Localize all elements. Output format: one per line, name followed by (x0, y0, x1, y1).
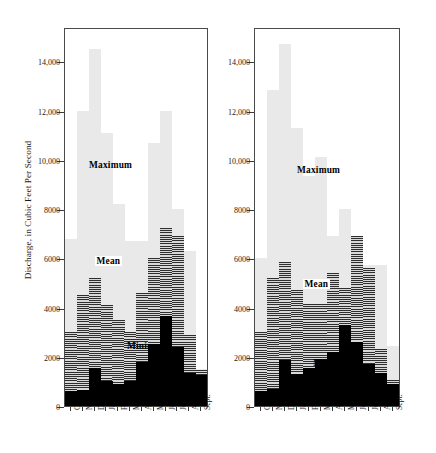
x-tick-mark (380, 407, 381, 411)
y-tick-label: 8000 (234, 206, 250, 215)
y-tick-label: 10,000 (38, 156, 60, 165)
y-tick-label: 10,000 (228, 156, 250, 165)
y-tick-label: 0 (246, 403, 250, 412)
bar-minimum-mar (124, 381, 136, 406)
x-tick-mark (153, 407, 154, 411)
bar-minimum-nov (267, 389, 279, 406)
y-tick-label: 2000 (44, 353, 60, 362)
y-tick-label: 14,000 (228, 58, 250, 67)
x-tick-mark (200, 407, 201, 411)
bar-minimum-july (172, 347, 184, 406)
chart-panel-left: MaximumMeanMinimum 0200040006000800010,0… (64, 28, 208, 407)
y-tick-label: 2000 (234, 353, 250, 362)
bar-minimum-jan (101, 381, 113, 406)
series-label-mean: Mean (95, 256, 122, 266)
bar-minimum-aug (375, 373, 387, 406)
x-tick-mark (344, 407, 345, 411)
bar-minimum-sept (195, 375, 207, 406)
series-label-maximum: Maximum (297, 165, 340, 175)
x-tick-mark (176, 407, 177, 411)
x-tick-mark (94, 407, 95, 411)
y-tick-label: 6000 (44, 255, 60, 264)
figure-container: Discharge, in Cubic Feet Per Second Maxi… (0, 0, 436, 453)
bar-minimum-aug (183, 373, 195, 406)
x-tick-mark (392, 407, 393, 411)
bar-minimum-apr (136, 362, 148, 406)
bar-minimum-sept (387, 384, 399, 406)
x-tick-mark (105, 407, 106, 411)
chart-panel-right: MaximumMeanMinimum 0200040006000800010,0… (254, 28, 400, 407)
series-label-mean: Mean (303, 279, 330, 289)
bar-minimum-oct (65, 391, 77, 406)
y-tick-label: 12,000 (228, 107, 250, 116)
x-tick-mark (117, 407, 118, 411)
x-tick-mark (320, 407, 321, 411)
bar-minimum-july (363, 364, 375, 406)
y-tick-label: 4000 (44, 304, 60, 313)
bar-minimum-nov (77, 390, 89, 406)
x-tick-mark (272, 407, 273, 411)
y-tick-label: 4000 (234, 304, 250, 313)
series-label-maximum: Maximum (89, 160, 132, 170)
x-tick-mark (70, 407, 71, 411)
x-tick-mark (296, 407, 297, 411)
bar-minimum-feb (112, 384, 124, 406)
bar-minimum-may (148, 344, 160, 406)
series-label-minimum: Minimum (127, 341, 169, 351)
x-tick-mark (165, 407, 166, 411)
y-tick-label: 14,000 (38, 58, 60, 67)
y-tick-label: 12,000 (38, 107, 60, 116)
bar-minimum-dec (89, 368, 101, 406)
bar-minimum-june (351, 342, 363, 406)
plot-frame-right: MaximumMeanMinimum (254, 28, 400, 407)
x-tick-mark (356, 407, 357, 411)
x-tick-mark (82, 407, 83, 411)
x-tick-mark (188, 407, 189, 411)
bar-minimum-jan (291, 374, 303, 406)
y-tick-label: 0 (56, 403, 60, 412)
x-tick-mark (260, 407, 261, 411)
bar-mean-nov (267, 278, 279, 406)
plot-frame-left: MaximumMeanMinimum (64, 28, 208, 407)
bar-minimum-feb (303, 368, 315, 406)
bar-minimum-dec (279, 360, 291, 406)
x-tick-mark (129, 407, 130, 411)
x-tick-mark (368, 407, 369, 411)
x-tick-mark (141, 407, 142, 411)
x-tick-mark (332, 407, 333, 411)
y-axis-title: Discharge, in Cubic Feet Per Second (23, 90, 33, 330)
y-tick-label: 6000 (234, 255, 250, 264)
x-tick-mark (308, 407, 309, 411)
x-tick-mark (284, 407, 285, 411)
bar-minimum-oct (255, 391, 267, 406)
bar-minimum-june (160, 316, 172, 406)
series-label-minimum: Minimum (313, 358, 355, 368)
y-tick-label: 8000 (44, 206, 60, 215)
